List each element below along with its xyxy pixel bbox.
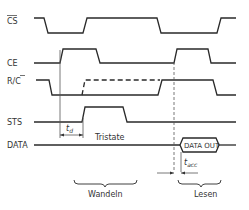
tristate-label: Tristate [94,133,125,142]
td-arrowhead-left [60,134,64,137]
wandeln-label: Wandeln [88,190,123,199]
signal-label-ce: CE [7,59,18,68]
wandeln-brace [74,180,137,187]
sts-waveform [34,107,236,122]
td-label: td [66,124,73,134]
tacc-arrowhead-left [170,172,174,175]
lesen-label: Lesen [194,190,217,199]
ce-waveform [34,49,236,63]
tacc-label: tacc [184,158,198,168]
rc-dashed-alt [82,80,160,95]
rc-waveform [36,80,236,95]
timing-diagram: CS CE R/C STS DATA DATA OUT td Tris [0,0,249,210]
timing-diagram-svg: CS CE R/C STS DATA DATA OUT td Tris [0,0,249,210]
td-arrowhead-right [79,134,83,137]
signal-label-cs: CS [7,17,18,26]
data-out-label: DATA OUT [184,142,220,150]
cs-waveform [34,18,236,33]
lesen-brace [178,180,221,187]
signal-label-rc: R/C [7,77,21,86]
signal-label-sts: STS [7,118,22,127]
tacc-arrowhead-right [181,172,185,175]
signal-label-data: DATA [7,141,28,150]
